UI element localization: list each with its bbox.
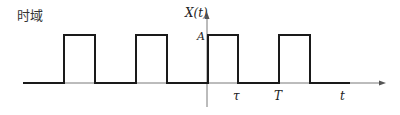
- x-axis-arrow-icon: [379, 81, 386, 86]
- tick-label-tau: τ: [233, 89, 240, 103]
- time-domain-diagram: 时域 X(t) A τ T t: [0, 0, 400, 115]
- y-axis-label: X(t): [184, 6, 208, 20]
- tick-label-period: T: [274, 89, 283, 103]
- amplitude-label: A: [196, 30, 205, 43]
- pulse-signal: [23, 35, 350, 83]
- x-axis-label: t: [340, 89, 345, 103]
- pulse-train-plot: X(t) A τ T t: [0, 0, 400, 115]
